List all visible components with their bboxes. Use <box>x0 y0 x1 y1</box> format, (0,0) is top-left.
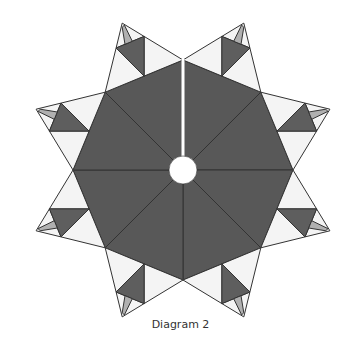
star-tree-skirt-diagram <box>0 0 361 346</box>
center-hole <box>169 156 197 184</box>
opening-slit <box>182 59 185 169</box>
diagram-caption: Diagram 2 <box>0 318 361 331</box>
